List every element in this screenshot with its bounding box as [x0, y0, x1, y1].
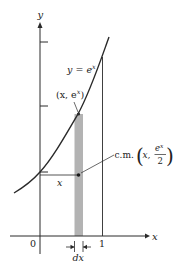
distance-label: x [57, 177, 63, 188]
cm-right-paren: ) [166, 144, 174, 168]
curve-label: y = y = eex [66, 63, 96, 75]
dx-arrow-right-head-icon [83, 245, 87, 249]
x-tick-1: 1 [99, 238, 105, 249]
x-axis-arrow-icon [145, 234, 150, 239]
y-axis-label: y [37, 9, 44, 20]
exponential-curve [14, 37, 109, 193]
cm-x-coord: x, [143, 150, 151, 160]
center-of-mass-dot [77, 173, 81, 177]
cm-denominator: 2 [158, 156, 163, 166]
point-top-dot [77, 112, 80, 115]
y-axis-arrow-icon [38, 22, 43, 28]
point-top-label: (x, ex) [56, 88, 84, 100]
x-tick-0: 0 [30, 238, 36, 249]
center-of-mass-leader [81, 155, 114, 173]
point-top-leader [74, 102, 78, 112]
dx-arrow-left-head-icon [71, 245, 75, 249]
cm-numerator: ex [155, 142, 164, 153]
dx-label: dx [73, 252, 85, 263]
x-axis-label: x [152, 231, 158, 242]
diagram-figure: x y 0 1 y = y = eex (x, ex) x c.m. ( x, … [0, 0, 183, 269]
center-of-mass-label: c.m. [115, 150, 134, 160]
